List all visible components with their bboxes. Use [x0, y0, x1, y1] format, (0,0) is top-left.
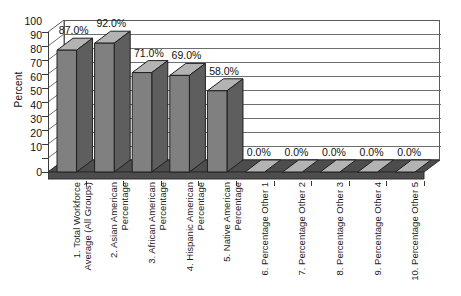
x-axis-category-label: 3. African American Percentage [147, 182, 168, 294]
data-label: 69.0% [172, 50, 202, 61]
x-axis-category-label: 1. Total Workforce Average (All Groups) [72, 182, 93, 294]
x-axis-category-label: 7. Percentage Other 2 [297, 182, 308, 294]
data-label: 92.0% [96, 18, 126, 29]
data-label: 0.0% [397, 147, 421, 158]
x-axis-category-label: 5. Native American Percentage [222, 182, 243, 294]
chart-3d-column: Percent 100 90 80 70 60 50 40 30 20 10 0 [0, 0, 461, 296]
data-label: 0.0% [247, 147, 271, 158]
x-axis-category-labels: 1. Total Workforce Average (All Groups)2… [0, 182, 461, 296]
x-axis-category-label: 10. Percentage Other 5 [410, 182, 421, 294]
data-label: 58.0% [209, 66, 239, 77]
x-axis-category-label: 9. Percentage Other 4 [373, 182, 384, 294]
data-label: 87.0% [59, 25, 89, 36]
data-label: 0.0% [284, 147, 308, 158]
x-axis-category-label: 4. Hispanic American Percentage [185, 182, 206, 294]
x-axis-category-label: 6. Percentage Other 1 [260, 182, 271, 294]
data-label: 0.0% [322, 147, 346, 158]
data-label: 0.0% [360, 147, 384, 158]
x-axis-category-label: 2. Asian American Percentage [109, 182, 130, 294]
x-axis-category-label: 8. Percentage Other 3 [335, 182, 346, 294]
data-label: 71.0% [134, 48, 164, 59]
